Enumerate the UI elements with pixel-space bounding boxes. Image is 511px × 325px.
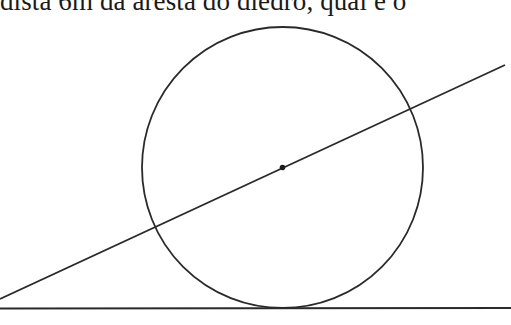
slanted-line [0, 65, 505, 299]
geometry-figure [0, 0, 511, 325]
base-line [0, 308, 511, 309]
center-point [280, 165, 286, 171]
